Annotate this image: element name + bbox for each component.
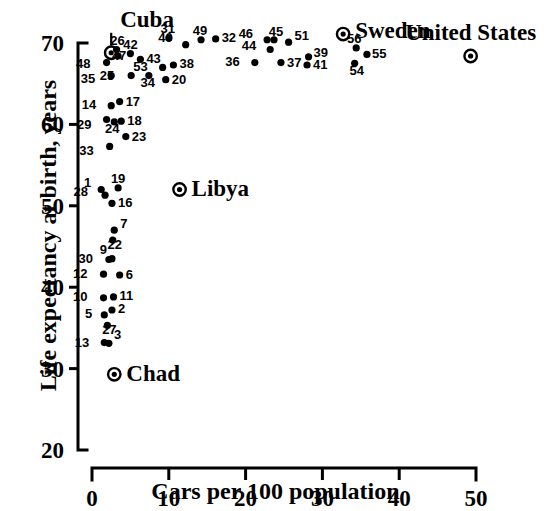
data-point-label-46: 46 <box>239 26 253 41</box>
highlight-marker-dot-cuba <box>109 50 114 55</box>
data-point-label-29: 29 <box>77 117 91 132</box>
x-axis-line <box>92 468 476 480</box>
data-point-label-36: 36 <box>225 54 239 69</box>
data-point-38 <box>170 61 177 68</box>
data-point-40 <box>182 41 189 48</box>
data-point-label-30: 30 <box>78 251 92 266</box>
tick-labels: 20304050607001020304050 <box>41 31 488 511</box>
data-point-label-23: 23 <box>132 129 146 144</box>
y-tick-label-70: 70 <box>41 31 64 56</box>
highlight-marker-dot-united-states <box>468 53 473 58</box>
x-tick-label-40: 40 <box>388 486 411 511</box>
data-point-label-11: 11 <box>120 288 134 303</box>
data-point-39 <box>305 53 312 60</box>
data-point-14 <box>108 102 115 109</box>
data-point-33 <box>106 143 113 150</box>
data-point-label-14: 14 <box>82 97 97 112</box>
data-point-label-49: 49 <box>193 23 207 38</box>
data-point-46 <box>264 36 271 43</box>
data-point-11 <box>110 293 117 300</box>
data-point-29 <box>103 116 110 123</box>
data-point-37 <box>277 59 284 66</box>
data-point-23 <box>122 133 129 140</box>
data-point-2 <box>108 306 115 313</box>
y-tick-label-30: 30 <box>41 357 64 382</box>
data-point-label-24: 24 <box>105 121 120 136</box>
data-point-label-28: 28 <box>74 184 88 199</box>
data-point-16 <box>108 200 115 207</box>
data-point-label-16: 16 <box>118 195 132 210</box>
data-point-label-7: 7 <box>120 216 127 231</box>
y-tick-label-60: 60 <box>41 112 64 137</box>
data-point-label-22: 22 <box>108 237 122 252</box>
plot-area: 20304050607001020304050 1235679101112131… <box>0 0 551 511</box>
data-point-label-13: 13 <box>75 335 89 350</box>
data-point-label-47: 47 <box>112 48 126 63</box>
scatter-plot-figure: Life expectancy at birth, years Cars per… <box>0 0 551 511</box>
data-point-label-6: 6 <box>126 267 133 282</box>
data-point-label-38: 38 <box>179 56 193 71</box>
data-point-label-19: 19 <box>111 171 125 186</box>
data-point-6 <box>116 271 123 278</box>
highlight-marker-dot-chad <box>112 372 117 377</box>
country-label-cuba: Cuba <box>120 7 174 32</box>
data-point-label-48: 48 <box>76 56 90 71</box>
data-point-label-55: 55 <box>372 46 386 61</box>
y-tick-label-50: 50 <box>41 194 64 219</box>
data-point-36 <box>251 59 258 66</box>
data-point-label-20: 20 <box>172 72 186 87</box>
country-label-libya: Libya <box>192 176 250 201</box>
data-point-48 <box>103 59 110 66</box>
data-point-label-9: 9 <box>100 242 107 257</box>
data-point-label-33: 33 <box>79 143 93 158</box>
data-point-5 <box>101 311 108 318</box>
data-point-label-53: 53 <box>133 59 147 74</box>
highlight-marker-dot-libya <box>177 187 182 192</box>
data-point-55 <box>363 51 370 58</box>
data-point-12 <box>100 271 107 278</box>
data-point-label-27: 27 <box>102 322 116 337</box>
highlight-marker-dot-sweden <box>341 31 346 36</box>
data-point-17 <box>116 98 123 105</box>
data-point-35 <box>108 72 115 79</box>
country-label-chad: Chad <box>126 361 180 386</box>
data-point-32 <box>212 35 219 42</box>
data-point-28 <box>101 192 108 199</box>
y-tick-label-20: 20 <box>41 438 64 463</box>
data-point-10 <box>100 294 107 301</box>
data-point-label-41: 41 <box>313 57 327 72</box>
data-point-label-54: 54 <box>349 63 364 78</box>
data-point-label-35: 35 <box>81 71 95 86</box>
x-tick-label-0: 0 <box>86 486 98 511</box>
data-point-label-45: 45 <box>269 24 283 39</box>
data-point-label-2: 2 <box>118 301 125 316</box>
country-label-united-states: United States <box>405 20 536 45</box>
data-point-53 <box>159 64 166 71</box>
data-point-label-51: 51 <box>295 28 309 43</box>
data-point-label-43: 43 <box>146 51 160 66</box>
x-tick-label-20: 20 <box>234 486 257 511</box>
data-point-7 <box>111 227 118 234</box>
data-point-label-18: 18 <box>127 113 141 128</box>
data-point-label-5: 5 <box>85 306 92 321</box>
data-point-label-10: 10 <box>73 289 87 304</box>
x-tick-label-10: 10 <box>157 486 180 511</box>
data-point-label-37: 37 <box>287 55 301 70</box>
data-point-label-12: 12 <box>73 266 87 281</box>
x-tick-label-50: 50 <box>465 486 488 511</box>
data-point-label-17: 17 <box>126 94 140 109</box>
y-tick-label-40: 40 <box>41 275 64 300</box>
data-point-20 <box>162 76 169 83</box>
data-point-label-32: 32 <box>222 30 236 45</box>
data-point-44 <box>267 46 274 53</box>
x-tick-label-30: 30 <box>311 486 334 511</box>
data-point-41 <box>303 61 310 68</box>
data-point-51 <box>285 39 292 46</box>
data-point-label-34: 34 <box>141 75 156 90</box>
data-point-13 <box>101 339 108 346</box>
data-point-label-40: 40 <box>158 30 172 45</box>
data-point-30 <box>105 256 112 263</box>
